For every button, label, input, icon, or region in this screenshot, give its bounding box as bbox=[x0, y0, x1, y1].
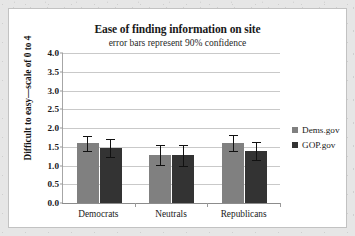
y-tick-label: 2.0 bbox=[48, 123, 59, 133]
chart-subtitle: error bars represent 90% confidence bbox=[9, 38, 346, 48]
chart-title: Ease of finding information on site bbox=[9, 23, 346, 35]
error-bar-line bbox=[233, 135, 234, 151]
y-tick-label: 0.0 bbox=[48, 198, 59, 208]
legend-item[interactable]: Dems.gov bbox=[292, 122, 340, 137]
error-bar-line bbox=[256, 142, 257, 159]
legend-swatch-icon bbox=[292, 142, 298, 148]
y-tick-label: 3.5 bbox=[48, 67, 59, 77]
x-category-label: Neutrals bbox=[155, 209, 187, 219]
legend-label: Dems.gov bbox=[302, 125, 340, 135]
error-bar bbox=[100, 53, 122, 203]
error-bar-cap-upper bbox=[83, 136, 92, 137]
error-bar-line bbox=[87, 136, 88, 152]
x-axis-separator bbox=[207, 203, 208, 207]
error-bar-cap-upper bbox=[106, 139, 115, 140]
x-category-label: Democrats bbox=[78, 209, 118, 219]
y-tick-label: 3.0 bbox=[48, 86, 59, 96]
legend-swatch-icon bbox=[292, 127, 298, 133]
error-bar-cap-upper bbox=[252, 142, 261, 143]
plot-wrapper: 4.03.53.02.52.01.51.00.50.0 DemocratsNeu… bbox=[32, 53, 332, 221]
error-bar-line bbox=[160, 145, 161, 165]
chart-card: Ease of finding information on site erro… bbox=[8, 8, 347, 228]
y-tick-label: 1.5 bbox=[48, 142, 59, 152]
error-bar bbox=[222, 53, 244, 203]
error-bar-cap-upper bbox=[179, 145, 188, 146]
error-bar bbox=[149, 53, 171, 203]
error-bar-line bbox=[110, 139, 111, 157]
y-tick-label: 4.0 bbox=[48, 48, 59, 58]
legend-label: GOP.gov bbox=[302, 140, 335, 150]
x-category-label: Republicans bbox=[221, 209, 267, 219]
error-bar-line bbox=[183, 145, 184, 166]
error-bar-cap-lower bbox=[252, 160, 261, 161]
error-bar bbox=[77, 53, 99, 203]
error-bar bbox=[245, 53, 267, 203]
error-bar bbox=[172, 53, 194, 203]
error-bar-cap-lower bbox=[83, 151, 92, 152]
plot-area: 4.03.53.02.52.01.51.00.50.0 bbox=[62, 53, 280, 203]
y-tick-label: 2.5 bbox=[48, 104, 59, 114]
x-axis-separator bbox=[280, 203, 281, 207]
bar-group bbox=[136, 53, 209, 203]
error-bar-cap-lower bbox=[229, 151, 238, 152]
chart-legend: Dems.govGOP.gov bbox=[292, 122, 340, 152]
legend-item[interactable]: GOP.gov bbox=[292, 137, 340, 152]
y-tick-label: 0.5 bbox=[48, 179, 59, 189]
x-axis-line bbox=[62, 203, 280, 204]
error-bar-cap-lower bbox=[156, 165, 165, 166]
error-bar-cap-upper bbox=[156, 145, 165, 146]
x-axis-separator bbox=[135, 203, 136, 207]
error-bar-cap-lower bbox=[179, 166, 188, 167]
error-bar-cap-upper bbox=[229, 135, 238, 136]
y-tick-label: 1.0 bbox=[48, 161, 59, 171]
bar-group bbox=[208, 53, 281, 203]
bar-group bbox=[63, 53, 136, 203]
error-bar-cap-lower bbox=[106, 157, 115, 158]
